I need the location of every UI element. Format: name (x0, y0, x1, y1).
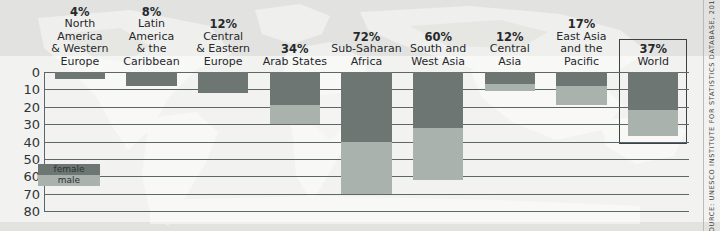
plot-area (44, 72, 689, 211)
bar-female (485, 72, 535, 84)
bar-female (55, 72, 105, 79)
bar-female (628, 72, 678, 110)
bar-female (198, 72, 248, 93)
legend: female male (38, 164, 100, 186)
y-tick-20: 20 (6, 101, 40, 114)
bar-group (485, 72, 535, 211)
right-rule (703, 0, 704, 231)
y-tick-30: 30 (6, 118, 40, 131)
bar-female (413, 72, 463, 128)
bar-female (126, 72, 176, 86)
bar-group (413, 72, 463, 211)
bar-group (628, 72, 678, 211)
bar-group (270, 72, 320, 211)
gridline-80 (44, 211, 689, 212)
y-tick-70: 70 (6, 188, 40, 201)
y-tick-60: 60 (6, 170, 40, 183)
bar-group (55, 72, 105, 211)
group-percent: 12% (181, 18, 265, 30)
y-tick-10: 10 (6, 83, 40, 96)
y-axis-tick-labels: 01020304050607080 (0, 72, 40, 212)
y-tick-50: 50 (6, 153, 40, 166)
bar-group (341, 72, 391, 211)
y-tick-40: 40 (6, 136, 40, 149)
bar-group (198, 72, 248, 211)
legend-item-male: male (38, 175, 100, 186)
chart-canvas: 4%NorthAmerica& WesternEurope8%LatinAmer… (0, 0, 720, 231)
source-note: SOURCE: UNESCO INSTITUTE FOR STATISTICS … (705, 0, 719, 231)
source-note-text: SOURCE: UNESCO INSTITUTE FOR STATISTICS … (708, 0, 716, 231)
bar-female (341, 72, 391, 142)
bar-female (556, 72, 606, 86)
bar-group (126, 72, 176, 211)
bar-group (556, 72, 606, 211)
legend-item-female: female (38, 164, 100, 175)
bar-female (270, 72, 320, 105)
y-tick-0: 0 (6, 66, 40, 79)
y-tick-80: 80 (6, 205, 40, 218)
group-percent: 17% (540, 18, 624, 30)
